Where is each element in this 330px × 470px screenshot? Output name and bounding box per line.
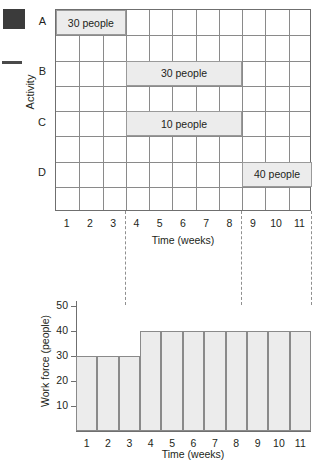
gantt-week-label: 10 [265, 217, 287, 229]
page-marker-square [3, 9, 25, 29]
gantt-gridline-vertical [219, 10, 220, 210]
gantt-grid: 30 people30 people10 people40 people [55, 9, 311, 211]
histogram-bar [268, 331, 289, 431]
histogram-x-axis-title: Time (weeks) [141, 448, 245, 460]
histogram-x-axis-line [76, 431, 311, 432]
gantt-gridline-horizontal [56, 136, 310, 137]
histogram-y-tick-label: 30 [48, 349, 68, 361]
histogram-week-label: 10 [268, 437, 290, 449]
histogram-week-label: 1 [76, 437, 98, 449]
histogram-bar [247, 331, 268, 431]
histogram-bar [290, 331, 311, 431]
histogram-y-tick-label: 50 [48, 299, 68, 311]
page-marker-dash [2, 61, 22, 64]
gantt-week-label: 6 [172, 217, 194, 229]
gantt-gridline-vertical [196, 10, 197, 210]
histogram-week-label: 11 [289, 437, 311, 449]
gantt-activity-label-a: A [26, 15, 46, 27]
histogram-y-tick-label: 10 [48, 399, 68, 411]
gantt-activity-label-b: B [26, 65, 46, 77]
gantt-week-label: 8 [219, 217, 241, 229]
gantt-bar-a: 30 people [56, 10, 126, 35]
histogram-bar [204, 331, 225, 431]
gantt-gridline-vertical [126, 10, 127, 210]
histogram-week-label: 3 [118, 437, 140, 449]
gantt-gridline-horizontal [56, 35, 310, 36]
histogram-bar [97, 356, 118, 431]
gantt-gridline-horizontal [56, 187, 310, 188]
histogram-y-tick [71, 331, 76, 332]
gantt-gridline-vertical [79, 10, 80, 210]
gantt-week-label: 4 [125, 217, 147, 229]
gantt-x-axis-title: Time (weeks) [131, 234, 235, 246]
histogram-y-tick-label: 40 [48, 324, 68, 336]
histogram-week-label: 9 [247, 437, 269, 449]
figure-canvas: Activity ABCD 30 people30 people10 peopl… [0, 0, 330, 470]
gantt-week-label: 5 [149, 217, 171, 229]
histogram-y-tick-label: 20 [48, 374, 68, 386]
gantt-gridline-horizontal [56, 86, 310, 87]
phase-boundary-dashed-line [241, 211, 242, 305]
gantt-gridline-vertical [149, 10, 150, 210]
gantt-gridline-vertical [103, 10, 104, 210]
gantt-week-label: 7 [195, 217, 217, 229]
gantt-week-label: 2 [79, 217, 101, 229]
phase-boundary-dashed-line [311, 211, 312, 305]
gantt-week-label: 11 [288, 217, 310, 229]
gantt-bar-c: 10 people [126, 111, 242, 136]
histogram-bar [140, 331, 161, 431]
histogram-bar [161, 331, 182, 431]
gantt-activity-label-d: D [26, 166, 46, 178]
histogram-bar [183, 331, 204, 431]
gantt-bar-d: 40 people [242, 162, 312, 187]
gantt-week-label: 1 [56, 217, 78, 229]
histogram-bar [76, 356, 97, 431]
histogram-week-label: 2 [97, 437, 119, 449]
histogram-bar [226, 331, 247, 431]
workforce-histogram: Work force (people) 1020304050 [76, 301, 311, 431]
gantt-week-label: 9 [242, 217, 264, 229]
gantt-week-label: 3 [102, 217, 124, 229]
gantt-activity-label-c: C [26, 116, 46, 128]
phase-boundary-dashed-line [125, 211, 126, 305]
gantt-bar-b: 30 people [126, 61, 242, 86]
histogram-bar [119, 356, 140, 431]
histogram-y-tick [71, 306, 76, 307]
gantt-gridline-vertical [172, 10, 173, 210]
